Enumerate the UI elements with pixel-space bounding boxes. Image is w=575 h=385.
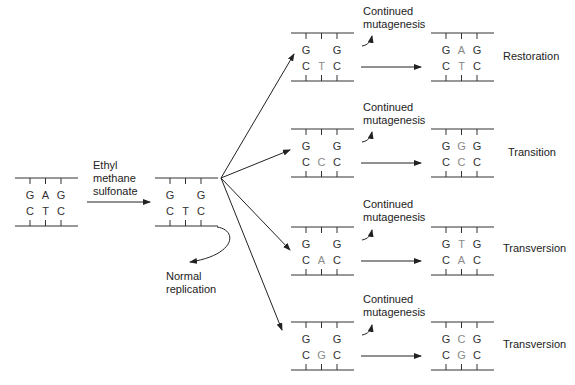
continued-mutagenesis-label-2: Continued mutagenesis (363, 101, 425, 127)
base-bottom: C (458, 156, 466, 168)
base-bottom: C (473, 349, 481, 361)
base-bottom: A (458, 254, 466, 266)
base-bottom: G (457, 349, 466, 361)
continued-mutagenesis-arrow-icon-1 (362, 36, 372, 46)
outcome-label-1: Restoration (503, 50, 559, 63)
base-bottom: C (333, 254, 341, 266)
base-top: C (458, 333, 466, 345)
base-top: A (458, 44, 466, 56)
result-duplex-3: GCTAGC (431, 227, 494, 275)
continued-mutagenesis-label-3: Continued mutagenesis (363, 198, 425, 224)
base-top: G (333, 238, 342, 250)
mutant-duplex-2: GCCGC (291, 129, 354, 177)
base-bottom: C (26, 205, 34, 217)
fan-arrow-icon-4 (221, 178, 282, 330)
base-bottom: C (442, 156, 450, 168)
base-top: G (302, 140, 311, 152)
result-duplex-4: GCCGGC (431, 322, 494, 370)
outcome-label-3: Transversion (503, 242, 566, 255)
base-top: G (457, 140, 466, 152)
base-top: G (166, 189, 175, 201)
base-bottom: C (333, 60, 341, 72)
base-top: T (458, 238, 465, 250)
continued-mutagenesis-label-4: Continued mutagenesis (363, 293, 425, 319)
base-top: G (302, 238, 311, 250)
outcome-label-2: Transition (508, 146, 556, 159)
continued-mutagenesis-arrow-icon-2 (362, 132, 372, 142)
base-bottom: C (333, 156, 341, 168)
base-bottom: T (318, 60, 325, 72)
normal-replication-arrow-icon (190, 227, 230, 262)
fan-arrow-icon-3 (221, 178, 290, 250)
mutagenesis-diagram: GCATGCGCTGCGCTGCGCATGCGCCGCGCGCGCGCAGCGC… (0, 0, 575, 385)
continued-mutagenesis-arrow-icon-3 (362, 230, 372, 240)
base-bottom: C (302, 60, 310, 72)
base-top: G (473, 238, 482, 250)
base-bottom: C (442, 349, 450, 361)
base-top: G (473, 333, 482, 345)
base-bottom: C (333, 349, 341, 361)
treatment-label: Ethyl methane sulfonate (93, 159, 138, 198)
base-bottom: C (318, 156, 326, 168)
base-top: G (333, 140, 342, 152)
base-top: G (333, 333, 342, 345)
base-bottom: C (197, 205, 205, 217)
fan-arrow-icon-2 (221, 150, 290, 178)
initial-duplex: GCATGC (15, 178, 78, 226)
base-top: G (442, 140, 451, 152)
base-top: G (333, 44, 342, 56)
base-bottom: T (42, 205, 49, 217)
base-bottom: C (302, 156, 310, 168)
outcome-label-4: Transversion (503, 338, 566, 351)
result-duplex-1: GCATGC (431, 33, 494, 81)
base-bottom: C (442, 254, 450, 266)
base-bottom: C (473, 60, 481, 72)
base-top: G (442, 333, 451, 345)
base-bottom: T (182, 205, 189, 217)
base-bottom: C (166, 205, 174, 217)
base-top: G (26, 189, 35, 201)
result-duplex-2: GCGCGC (431, 129, 494, 177)
base-bottom: C (302, 254, 310, 266)
base-top: G (473, 140, 482, 152)
base-top: G (442, 238, 451, 250)
base-top: G (57, 189, 66, 201)
base-bottom: C (473, 254, 481, 266)
base-bottom: C (442, 60, 450, 72)
base-top: G (442, 44, 451, 56)
continued-mutagenesis-label-1: Continued mutagenesis (363, 5, 425, 31)
mutant-duplex-1: GCTGC (291, 33, 354, 81)
damaged-duplex: GCTGC (155, 178, 218, 226)
mutant-duplex-3: GCAGC (291, 227, 354, 275)
base-top: G (473, 44, 482, 56)
fan-arrow-icon-1 (221, 54, 294, 178)
mutant-duplex-4: GCGGC (291, 322, 354, 370)
base-bottom: A (318, 254, 326, 266)
normal-replication-label: Normal replication (166, 270, 216, 296)
base-top: A (42, 189, 50, 201)
base-bottom: C (57, 205, 65, 217)
base-bottom: G (317, 349, 326, 361)
base-top: G (302, 44, 311, 56)
base-bottom: C (302, 349, 310, 361)
base-bottom: C (473, 156, 481, 168)
continued-mutagenesis-arrow-icon-4 (362, 325, 372, 335)
base-top: G (197, 189, 206, 201)
base-top: G (302, 333, 311, 345)
base-bottom: T (458, 60, 465, 72)
